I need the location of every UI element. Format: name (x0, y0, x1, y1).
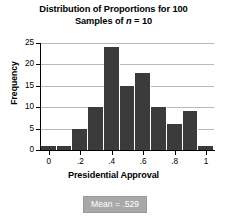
y-tick-5 (36, 129, 40, 130)
chart-title-line-2-tail: = 10 (132, 16, 152, 26)
y-tick-25 (36, 43, 40, 44)
gridline-20 (41, 64, 214, 65)
plot-area (41, 43, 214, 150)
bar (57, 146, 73, 150)
x-tick-label-.4: .4 (100, 157, 124, 166)
y-tick-20 (36, 64, 40, 65)
histogram-figure: Distribution of Proportions for 100 Samp… (0, 0, 227, 219)
x-tick-label-0: 0 (37, 157, 61, 166)
x-axis-title: Presidential Approval (0, 170, 227, 180)
bar (41, 146, 57, 150)
y-tick-label-20: 20 (8, 60, 34, 68)
bar (72, 129, 88, 150)
x-tick-.6 (143, 151, 144, 155)
gridline-25 (41, 43, 214, 44)
chart-title: Distribution of Proportions for 100 Samp… (0, 3, 227, 27)
bar (120, 86, 136, 150)
bar (183, 111, 199, 150)
y-tick-label-15: 15 (8, 82, 34, 90)
x-tick-.8 (175, 151, 176, 155)
y-tick-label-0: 0 (8, 146, 34, 154)
y-tick-10 (36, 107, 40, 108)
y-tick-label-5: 5 (8, 125, 34, 133)
chart-title-line-1: Distribution of Proportions for 100 (0, 3, 227, 15)
x-tick-label-.2: .2 (68, 157, 92, 166)
x-tick-.2 (80, 151, 81, 155)
bar (88, 107, 104, 150)
mean-annotation-box: Mean = .529 (83, 196, 147, 213)
y-tick-15 (36, 86, 40, 87)
x-tick-.4 (112, 151, 113, 155)
bar (151, 107, 167, 150)
x-tick-label-1: 1 (194, 157, 218, 166)
x-tick-0 (49, 151, 50, 155)
bar (198, 146, 214, 150)
bar (167, 124, 183, 150)
x-tick-label-.8: .8 (163, 157, 187, 166)
chart-title-line-2-head: Samples of (75, 16, 126, 26)
y-tick-label-10: 10 (8, 103, 34, 111)
chart-title-line-2: Samples of n = 10 (0, 15, 227, 27)
bar (135, 73, 151, 150)
y-tick-0 (36, 150, 40, 151)
y-tick-label-25: 25 (8, 39, 34, 47)
x-tick-1 (206, 151, 207, 155)
x-tick-label-.6: .6 (131, 157, 155, 166)
bar (104, 47, 120, 150)
x-axis-line (40, 150, 215, 151)
